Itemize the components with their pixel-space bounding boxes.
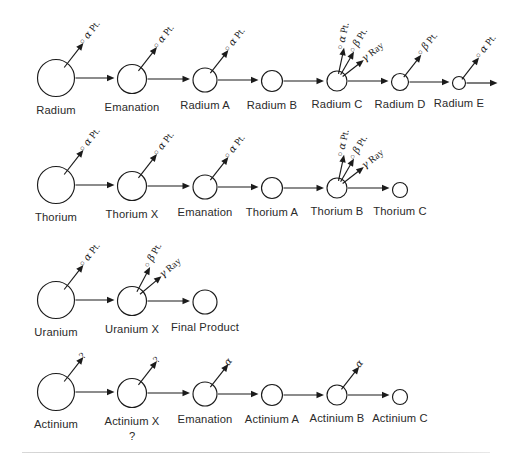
atom-circle <box>118 172 147 201</box>
decay-arrowhead <box>382 392 390 398</box>
emission-ray-beta <box>137 272 147 291</box>
decay-node-radium-5 <box>0 0 511 464</box>
atom-circle <box>118 287 147 316</box>
atom-circle <box>193 175 217 199</box>
emission-ray-gamma <box>140 280 157 294</box>
decay-arrowhead <box>317 392 325 398</box>
decay-node-actinium-2 <box>0 0 511 464</box>
atom-circle <box>118 65 147 94</box>
element-sublabel-unknown: ? <box>129 430 135 442</box>
decay-node-uranium-1 <box>0 0 511 464</box>
emission-ray-alpha_short <box>210 369 224 387</box>
element-label: Actinium A <box>245 413 299 425</box>
decay-node-actinium-4 <box>0 0 511 464</box>
element-label: Radium <box>36 104 75 116</box>
element-label: Emanation <box>178 413 233 425</box>
element-label: Thorium X <box>106 208 159 220</box>
element-label: Actinium X <box>105 415 160 427</box>
emission-ray-gamma <box>343 64 359 77</box>
decay-node-thorium-5 <box>0 0 511 464</box>
decay-arrowhead <box>317 185 325 191</box>
atom-circle <box>392 74 409 91</box>
decay-node-thorium-0 <box>0 0 511 464</box>
decay-arrowhead <box>382 185 390 191</box>
emission-ray-alpha <box>64 270 80 290</box>
emission-ray-alpha_short <box>341 371 355 389</box>
atom-circle <box>193 382 217 406</box>
element-label: Emanation <box>105 101 160 113</box>
decay-arrowhead <box>107 389 115 395</box>
element-label: Radium D <box>375 98 426 110</box>
decay-arrowhead <box>183 298 191 304</box>
decay-arrowhead <box>183 76 191 82</box>
decay-node-thorium-2 <box>0 0 511 464</box>
emission-ray-alpha <box>210 162 224 180</box>
decay-arrowhead <box>442 79 450 85</box>
decay-node-actinium-1 <box>0 0 511 464</box>
ray-label-beta: ○ β Pt. <box>414 30 439 58</box>
decay-node-radium-3 <box>0 0 511 464</box>
decay-node-thorium-4 <box>0 0 511 464</box>
emission-ray-alpha <box>138 52 153 71</box>
emission-ray-alpha <box>338 161 342 181</box>
emission-arrowhead <box>356 60 364 67</box>
decay-arrowhead <box>251 184 259 190</box>
decay-arrowhead <box>107 75 115 81</box>
decay-arrowhead <box>107 297 115 303</box>
ray-label-unknown: ? <box>150 354 161 364</box>
ray-label-alpha: ○ α Pt. <box>222 132 248 160</box>
atom-circle <box>193 68 217 92</box>
atom-circle <box>393 183 408 198</box>
ray-label-alpha_short: α <box>222 355 235 367</box>
decay-series-diagram: ○ α Pt.Radium○ α Pt.Emanation○ α Pt.Radi… <box>0 0 511 464</box>
decay-node-thorium-3 <box>0 0 511 464</box>
ray-label-gamma: γ Ray <box>157 256 183 280</box>
ray-label-alpha_short: α <box>352 358 365 370</box>
emission-ray-unknown <box>138 366 153 385</box>
decay-node-radium-1 <box>0 0 511 464</box>
element-label: Actinium B <box>310 412 365 424</box>
ray-label-alpha: ○ α Pt. <box>77 18 103 46</box>
ray-label-beta: ○ β Pt. <box>142 241 164 270</box>
atom-circle <box>327 178 347 198</box>
decay-node-thorium-1 <box>0 0 511 464</box>
element-label: Radium B <box>247 99 297 111</box>
ray-label-gamma: γ Ray <box>359 147 385 171</box>
element-label: Actinium C <box>372 412 428 424</box>
decay-node-radium-0 <box>0 0 511 464</box>
decay-node-radium-2 <box>0 0 511 464</box>
emission-ray-beta <box>341 164 351 182</box>
emission-ray-alpha <box>64 48 80 68</box>
emission-ray-gamma <box>343 171 359 184</box>
decay-arrowhead <box>251 77 259 83</box>
decay-arrowhead <box>490 80 498 86</box>
ray-label-unknown: ? <box>77 350 88 360</box>
emission-ray-alpha <box>210 55 224 73</box>
ray-label-gamma: γ Ray <box>359 40 385 64</box>
atom-circle <box>38 60 75 97</box>
ray-label-alpha: ○ α Pt. <box>150 129 176 157</box>
atom-circle <box>327 385 347 405</box>
atom-circle <box>38 282 75 319</box>
footer-divider <box>22 452 490 453</box>
element-label: Radium C <box>312 98 363 110</box>
element-label: Radium E <box>434 97 484 109</box>
emission-ray-unknown <box>64 362 80 382</box>
atom-circle <box>393 390 408 405</box>
atom-circle <box>262 71 283 92</box>
element-label: Radium A <box>180 99 230 111</box>
atom-circle <box>38 167 75 204</box>
atom-circle <box>453 77 466 90</box>
atom-circle <box>118 379 147 408</box>
emission-ray-alpha <box>64 155 80 175</box>
element-label: Thorium B <box>311 205 364 217</box>
decay-node-radium-4 <box>0 0 511 464</box>
ray-label-alpha: ○ α Pt. <box>472 32 498 60</box>
element-label: Thorium A <box>246 206 298 218</box>
emission-ray-beta <box>341 57 351 75</box>
decay-arrowhead <box>107 182 115 188</box>
ray-label-alpha: ○ α Pt. <box>77 240 103 268</box>
decay-node-actinium-3 <box>0 0 511 464</box>
element-label: Thorium <box>35 211 77 223</box>
atom-circle <box>262 385 283 406</box>
